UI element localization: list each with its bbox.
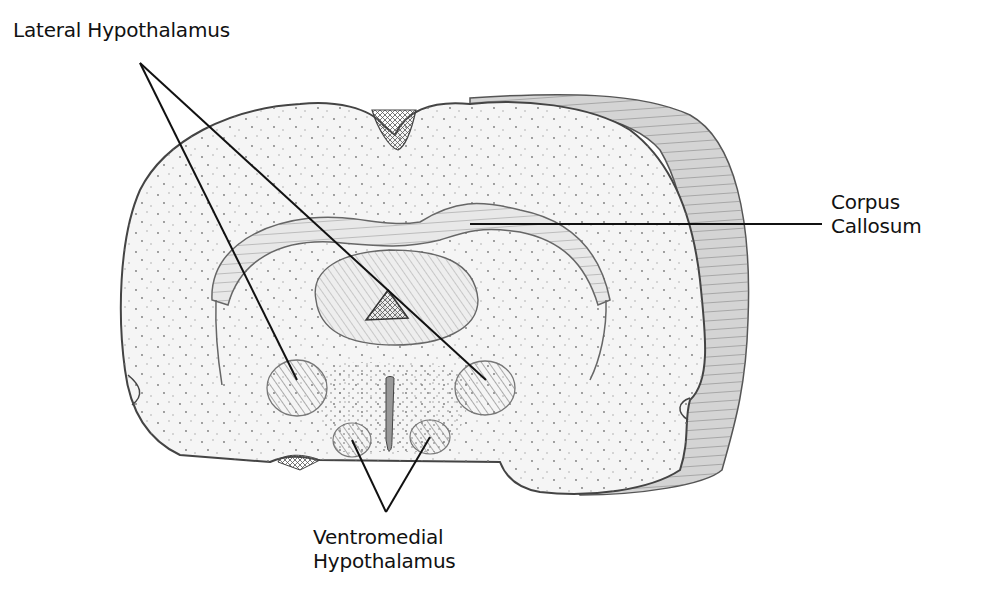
label-lateral-hypothalamus: Lateral Hypothalamus	[13, 18, 230, 42]
label-ventromedial-hypothalamus: Ventromedial Hypothalamus	[313, 525, 456, 573]
lateral-hypothalamus-left	[267, 360, 327, 416]
brain-section-diagram	[0, 0, 982, 609]
label-corpus-callosum-line2: Callosum	[831, 214, 922, 238]
label-vmh-line1: Ventromedial	[313, 525, 456, 549]
label-vmh-line2: Hypothalamus	[313, 549, 456, 573]
label-corpus-callosum-line1: Corpus	[831, 190, 922, 214]
ventral-base-left	[278, 455, 320, 470]
label-corpus-callosum: Corpus Callosum	[831, 190, 922, 238]
